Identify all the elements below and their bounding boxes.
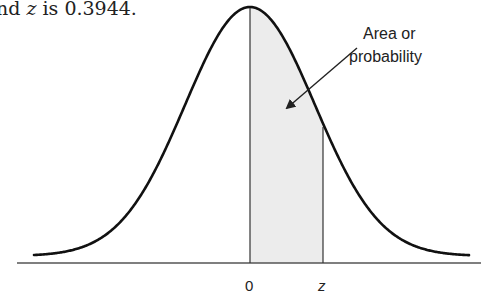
tick-zero: 0 [245, 277, 253, 294]
annotation-line2: probability [349, 48, 422, 65]
tick-z: z [317, 277, 326, 294]
shaded-area [34, 7, 469, 263]
annotation-line1: Area or [363, 25, 416, 42]
normal-curve-diagram: Area or probability 0 z [0, 0, 483, 306]
